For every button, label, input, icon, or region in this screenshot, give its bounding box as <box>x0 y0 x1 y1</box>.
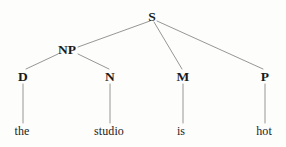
edge-np-d <box>26 54 58 69</box>
node-p: P <box>261 70 269 84</box>
edge-np-n <box>78 54 109 69</box>
leaf-studio: studio <box>94 125 124 137</box>
node-np: NP <box>58 43 76 57</box>
tree-edges-layer <box>0 0 286 147</box>
edge-s-p <box>157 21 263 69</box>
edge-group <box>23 21 265 123</box>
node-d: D <box>18 70 28 84</box>
edge-s-m <box>154 22 182 69</box>
leaf-the: the <box>15 125 30 137</box>
syntax-tree-figure: S NP D N M P the studio is hot <box>0 0 286 147</box>
edge-s-np <box>78 21 150 47</box>
node-n: N <box>105 70 115 84</box>
node-m: M <box>177 70 190 84</box>
leaf-is: is <box>177 125 185 137</box>
leaf-hot: hot <box>256 125 272 137</box>
node-s: S <box>148 10 156 24</box>
